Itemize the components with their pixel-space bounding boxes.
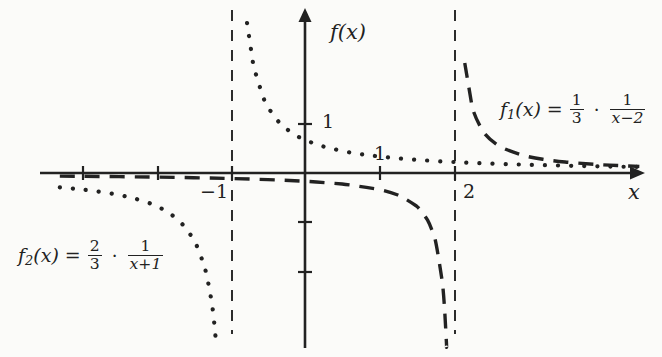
x-tick-label-2: 2 — [463, 182, 475, 201]
f2-coefficient-denominator: 3 — [88, 255, 102, 273]
f2-argument: (x) — [33, 244, 59, 266]
function-plot-figure: f(x) x 1 1 −1 2 f1(x) = 1 3 · 1 x−2 f2(x… — [0, 0, 662, 357]
f1-function-name: f — [500, 98, 507, 120]
f1-formula-annotation: f1(x) = 1 3 · 1 x−2 — [500, 92, 646, 127]
f2-coefficient-fraction: 2 3 — [88, 238, 102, 273]
x-tick-label-neg1: −1 — [200, 182, 228, 201]
y-tick-label-1: 1 — [322, 112, 334, 131]
f1-fraction-numerator: 1 — [610, 92, 646, 109]
f2-main-fraction: 1 x+1 — [128, 238, 164, 273]
x-tick-label-1: 1 — [374, 144, 386, 163]
f1-coefficient-numerator: 1 — [570, 92, 584, 109]
f1-coefficient-denominator: 3 — [570, 109, 584, 127]
f1-coefficient-fraction: 1 3 — [570, 92, 584, 127]
f2-coefficient-numerator: 2 — [88, 238, 102, 255]
f2-formula-annotation: f2(x) = 2 3 · 1 x+1 — [18, 238, 164, 273]
y-axis-arrowhead — [299, 8, 312, 22]
f2-fraction-denominator: x+1 — [128, 255, 164, 273]
f2-equals-sign: = — [65, 244, 81, 266]
f1-main-fraction: 1 x−2 — [610, 92, 646, 127]
f1-multiplication-dot: · — [591, 99, 603, 120]
y-axis-label: f(x) — [330, 22, 366, 43]
plot-canvas — [0, 0, 662, 357]
f1-equals-sign: = — [547, 98, 563, 120]
f2-function-name: f — [18, 244, 25, 266]
x-axis-label: x — [628, 182, 640, 203]
f2-multiplication-dot: · — [109, 245, 121, 266]
f1-argument: (x) — [515, 98, 541, 120]
f2-fraction-numerator: 1 — [128, 238, 164, 255]
f1-fraction-denominator: x−2 — [610, 109, 646, 127]
